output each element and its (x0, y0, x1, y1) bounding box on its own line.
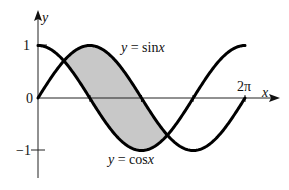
x-label-two-pi: 2π (237, 79, 251, 94)
sine-cosine-diagram: y x 1 0 −1 2π y = sinx y = cosx (0, 0, 289, 190)
y-axis-label: y (40, 10, 49, 25)
y-label-one: 1 (23, 38, 30, 53)
cosine-label: y = cosx (106, 152, 155, 167)
x-axis-label: x (261, 85, 269, 100)
y-label-neg-one: −1 (16, 143, 31, 158)
y-label-zero: 0 (26, 91, 33, 106)
sine-label: y = sinx (119, 40, 165, 55)
